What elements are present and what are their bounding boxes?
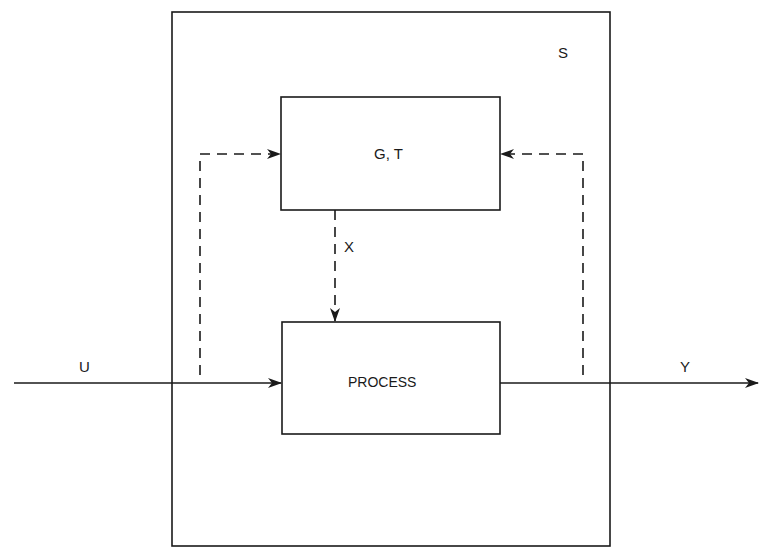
system-label: S (558, 44, 568, 61)
input-signal-label: U (79, 358, 90, 375)
control-signal-label: X (344, 238, 354, 255)
controller-label: G, T (374, 145, 403, 162)
block-diagram (0, 0, 767, 558)
input-measurement-dashed (200, 154, 280, 375)
process-label: PROCESS (348, 374, 416, 390)
system-boundary (172, 12, 610, 546)
output-signal-label: Y (680, 358, 690, 375)
output-feedback-dashed (501, 154, 583, 375)
